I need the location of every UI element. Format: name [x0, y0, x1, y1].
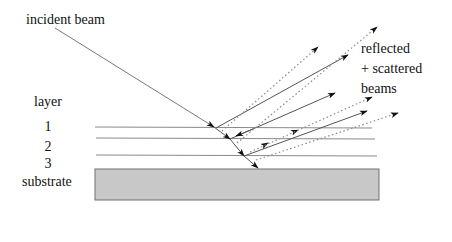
interface-line-3 [96, 155, 377, 156]
reflected-label-line1: reflected [361, 41, 410, 57]
reflected-label-line2: + scattered [361, 61, 422, 77]
multilayer-diagram: incident beam reflected + scattered beam… [0, 0, 452, 242]
scattered-beam-3 [250, 97, 372, 152]
layer-interfaces [95, 127, 377, 156]
reflected-beam-1 [216, 55, 348, 128]
substrate-block [95, 169, 379, 200]
scattered-beam-4 [256, 113, 398, 160]
scattered-beam-2 [237, 27, 377, 143]
interface-line-1 [95, 127, 372, 128]
interface-line-2 [96, 138, 375, 139]
scattered-beam-1 [222, 47, 318, 131]
incident-beam-label: incident beam [26, 12, 105, 28]
layer-3-label: 3 [38, 156, 58, 172]
layer-2-label: 2 [38, 139, 58, 155]
incident-beam [55, 28, 258, 168]
reflected-beam-3 [244, 111, 367, 156]
diagram-graphics [0, 0, 452, 242]
substrate-label: substrate [22, 174, 72, 190]
reflected-label-line3: beams [361, 81, 397, 97]
layer-header-label: layer [28, 94, 68, 110]
layer-1-label: 1 [38, 119, 58, 135]
